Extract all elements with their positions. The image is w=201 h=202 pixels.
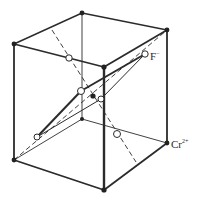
f-atom-lower-left bbox=[34, 134, 40, 140]
edge-top-left-back bbox=[14, 13, 82, 44]
cr-atom-top-back bbox=[80, 11, 85, 16]
crystal-unit-cell-diagram bbox=[0, 0, 201, 202]
cr-atom-bottom-back bbox=[80, 117, 84, 121]
cr-atom-bottom-left bbox=[12, 158, 17, 163]
bond-thick bbox=[37, 91, 81, 137]
f-atom-lower-right bbox=[114, 131, 121, 138]
edge-bottom-right bbox=[104, 143, 167, 190]
chromium-charge: 2+ bbox=[182, 138, 188, 144]
f-atom-upper-right bbox=[142, 51, 148, 57]
edge-top-left-front bbox=[14, 44, 104, 67]
chromium-ion-label: Cr2+ bbox=[171, 138, 188, 150]
bond-thick-upper bbox=[81, 54, 145, 91]
f-atom-top-face bbox=[66, 55, 72, 61]
chromium-symbol: Cr bbox=[171, 138, 182, 150]
cr-atom-top-right bbox=[165, 28, 170, 33]
cr-atom-top-front bbox=[101, 64, 106, 69]
fluoride-charge: − bbox=[156, 50, 159, 56]
hidden-edge-right bbox=[82, 119, 167, 143]
f-atom-inner-left bbox=[78, 88, 85, 95]
visible-edges bbox=[14, 13, 167, 190]
cr-atom-bottom-right bbox=[165, 141, 170, 146]
cation-atoms bbox=[12, 11, 170, 193]
f-atom-inner-right bbox=[98, 96, 104, 102]
edge-top-back-right bbox=[82, 13, 167, 30]
cr-atom-bottom-front bbox=[101, 187, 106, 192]
edge-bottom-left bbox=[14, 160, 104, 190]
cr-atom-top-left bbox=[12, 42, 17, 47]
fluoride-ion-label: F− bbox=[150, 50, 160, 62]
cr-atom-center bbox=[90, 93, 95, 98]
